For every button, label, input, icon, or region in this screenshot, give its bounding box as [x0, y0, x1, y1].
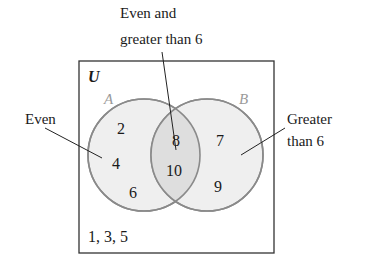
venn-diagram: U A B Even and greater than 6 Even Great… — [0, 0, 365, 262]
set-a-label: A — [103, 91, 114, 107]
callout-right-line1: Greater — [287, 111, 332, 127]
callout-top-line1: Even and — [120, 5, 177, 21]
element-b: 9 — [214, 178, 222, 195]
element-a: 4 — [112, 155, 120, 172]
set-b-label: B — [239, 91, 248, 107]
element-b: 7 — [216, 132, 224, 149]
element-intersection: 8 — [172, 132, 180, 149]
venn-svg: U A B Even and greater than 6 Even Great… — [0, 0, 365, 262]
callout-left: Even — [25, 111, 56, 127]
universe-label: U — [88, 68, 101, 85]
element-intersection: 10 — [166, 162, 182, 179]
element-a: 2 — [117, 120, 125, 137]
outside-elements: 1, 3, 5 — [88, 228, 128, 245]
callout-right-line2: than 6 — [287, 133, 325, 149]
element-a: 6 — [129, 184, 137, 201]
callout-top-line2: greater than 6 — [120, 31, 203, 47]
